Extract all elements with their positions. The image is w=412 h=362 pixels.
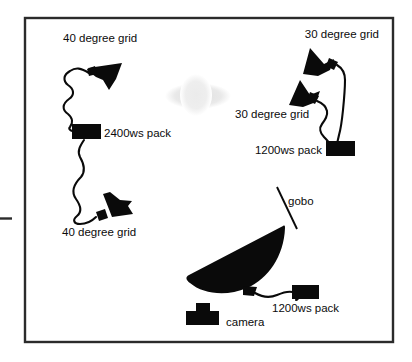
camera-viewfinder <box>196 303 210 312</box>
subject-head <box>180 74 212 116</box>
label-camera: camera <box>226 316 265 328</box>
label-gobo: gobo <box>288 195 314 207</box>
label-2400ws-pack: 2400ws pack <box>104 127 171 139</box>
lighting-diagram-canvas: 40 degree grid 40 degree grid 30 degree … <box>0 0 412 362</box>
label-30-degree-grid-lower: 30 degree grid <box>235 108 309 120</box>
power-pack-1200ws-right[interactable] <box>326 141 355 156</box>
power-pack-2400ws[interactable] <box>72 124 101 139</box>
label-1200ws-pack-right: 1200ws pack <box>255 144 322 156</box>
label-40-degree-grid-top: 40 degree grid <box>63 32 137 44</box>
label-30-degree-grid-top: 30 degree grid <box>305 28 379 40</box>
label-40-degree-grid-bottom: 40 degree grid <box>62 226 136 238</box>
camera-body <box>186 311 219 325</box>
diagram-svg: 40 degree grid 40 degree grid 30 degree … <box>0 0 412 362</box>
power-pack-1200ws-bottom[interactable] <box>292 285 319 299</box>
label-1200ws-pack-bottom: 1200ws pack <box>272 302 339 314</box>
